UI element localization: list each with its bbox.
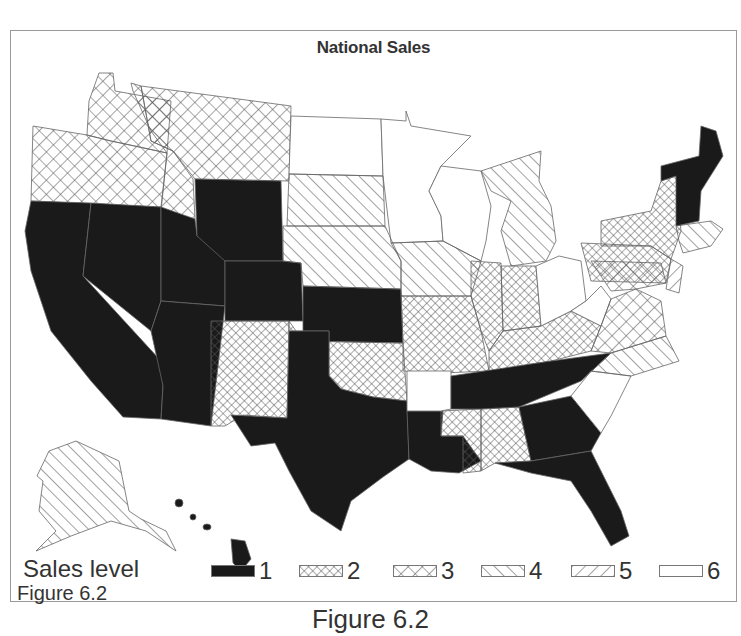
legend-level-2: 2 [299, 556, 360, 586]
legend-swatch-back-hatch [481, 565, 525, 577]
legend-level-3: 3 [393, 556, 454, 586]
us-map [11, 31, 738, 603]
legend-level-6: 6 [659, 556, 720, 586]
legend-swatch-blank [659, 565, 703, 577]
legend-level-label: 4 [529, 557, 542, 585]
figure-caption: Figure 6.2 [0, 604, 741, 635]
state-colorado [225, 261, 303, 321]
legend-swatch-forward-hatch [571, 565, 615, 577]
state-hawaii-oahu [190, 514, 196, 520]
state-michigan [481, 151, 556, 266]
state-north-dakota [289, 116, 383, 176]
state-arkansas [407, 371, 451, 411]
legend-level-1: 1 [211, 556, 272, 586]
legend-level-label: 5 [619, 557, 632, 585]
legend-level-label: 2 [347, 557, 360, 585]
state-hawaii-maui [203, 524, 211, 530]
state-new-mexico [211, 321, 289, 426]
state-south-dakota [287, 174, 385, 226]
state-alaska [36, 441, 176, 551]
legend-level-4: 4 [481, 556, 542, 586]
state-massachusetts-ct-ri [676, 221, 723, 253]
legend-title: Sales level [23, 555, 139, 583]
legend-level-5: 5 [571, 556, 632, 586]
legend-level-label: 1 [259, 557, 272, 585]
legend-swatch-fine-crosshatch [299, 565, 343, 577]
inner-figure-label: Figure 6.2 [17, 583, 107, 603]
state-florida [495, 451, 629, 546]
legend-level-label: 3 [441, 557, 454, 585]
state-indiana [501, 266, 541, 331]
map-frame: National Sales [10, 30, 737, 602]
legend-swatch-coarse-crosshatch [393, 565, 437, 577]
state-hawaii-kauai [175, 499, 183, 507]
legend-swatch-solid [211, 565, 255, 577]
legend-level-label: 6 [707, 557, 720, 585]
